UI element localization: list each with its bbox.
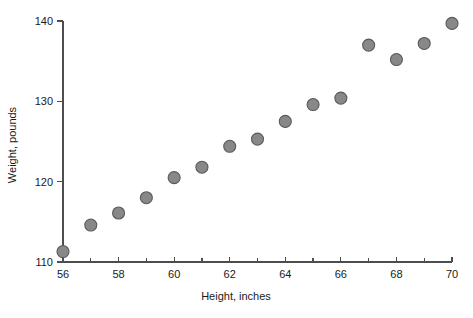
x-tick-label: 58: [112, 268, 124, 280]
x-axis: 5658606264666870: [57, 257, 458, 280]
data-point-marker: [196, 161, 208, 173]
data-point-marker: [113, 207, 125, 219]
x-tick-label: 64: [279, 268, 291, 280]
data-point-marker: [140, 192, 152, 204]
data-point-marker: [363, 39, 375, 51]
y-tick-label: 140: [35, 15, 53, 27]
y-tick-label: 130: [35, 95, 53, 107]
data-point-marker: [85, 219, 97, 231]
data-point-marker: [418, 37, 430, 49]
y-tick-label: 110: [35, 256, 53, 268]
x-tick-label: 70: [446, 268, 458, 280]
data-point-marker: [168, 172, 180, 184]
x-tick-label: 68: [390, 268, 402, 280]
data-point-marker: [279, 115, 291, 127]
data-point-marker: [57, 246, 69, 258]
data-point-marker: [224, 140, 236, 152]
scatter-chart-figure: 110120130140 5658606264666870 Height, in…: [0, 0, 473, 318]
x-tick-label: 66: [335, 268, 347, 280]
plot-area: 110120130140 5658606264666870 Height, in…: [0, 0, 473, 318]
data-point-marker: [307, 99, 319, 111]
data-point-marker: [390, 54, 402, 66]
data-point-marker: [446, 17, 458, 29]
data-point-marker: [335, 92, 347, 104]
y-axis-title: Weight, pounds: [6, 106, 18, 183]
data-point-marker: [252, 133, 264, 145]
x-tick-label: 60: [168, 268, 180, 280]
x-tick-label: 62: [224, 268, 236, 280]
x-axis-title: Height, inches: [201, 290, 271, 302]
y-axis: 110120130140: [35, 15, 63, 268]
y-tick-label: 120: [35, 176, 53, 188]
x-tick-label: 56: [57, 268, 69, 280]
data-points: [57, 17, 458, 257]
